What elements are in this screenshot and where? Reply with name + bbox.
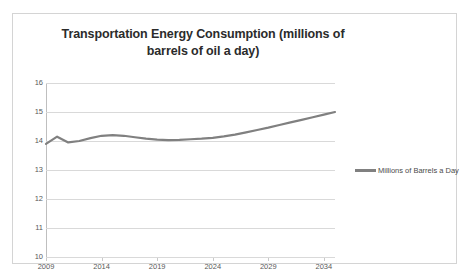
chart-container: Transportation Energy Consumption (milli… bbox=[12, 13, 457, 264]
x-tick-label: 2014 bbox=[82, 262, 122, 271]
y-tick-label: 14 bbox=[21, 137, 43, 145]
x-axis-labels: 200920142019202420292034 bbox=[46, 262, 346, 274]
plot-area bbox=[46, 83, 335, 257]
legend-item-label: Millions of Barrels a Day bbox=[378, 166, 459, 175]
x-tick-label: 2024 bbox=[193, 262, 233, 271]
x-tick-mark bbox=[157, 258, 158, 261]
chart-title-line-1: Transportation Energy Consumption (milli… bbox=[43, 26, 363, 43]
x-tick-mark bbox=[324, 258, 325, 261]
chart-legend: Millions of Barrels a Day bbox=[355, 166, 459, 175]
x-tick-label: 2029 bbox=[248, 262, 288, 271]
x-tick-mark bbox=[102, 258, 103, 261]
y-tick-label: 15 bbox=[21, 108, 43, 116]
x-tick-label: 2009 bbox=[26, 262, 66, 271]
chart-title: Transportation Energy Consumption (milli… bbox=[43, 26, 363, 60]
series-line-millions-of-barrels-a-day bbox=[46, 83, 335, 258]
y-axis-labels: 16151413121110 bbox=[19, 83, 43, 257]
x-tick-label: 2019 bbox=[137, 262, 177, 271]
y-tick-label: 10 bbox=[21, 253, 43, 261]
y-tick-label: 11 bbox=[21, 224, 43, 232]
x-tick-label: 2034 bbox=[304, 262, 344, 271]
x-tick-mark bbox=[46, 258, 47, 261]
y-tick-label: 13 bbox=[21, 166, 43, 174]
y-tick-label: 12 bbox=[21, 195, 43, 203]
x-tick-mark bbox=[213, 258, 214, 261]
y-tick-label: 16 bbox=[21, 79, 43, 87]
chart-title-line-2: barrels of oil a day) bbox=[43, 43, 363, 60]
legend-color-swatch bbox=[355, 169, 376, 172]
x-tick-mark bbox=[268, 258, 269, 261]
